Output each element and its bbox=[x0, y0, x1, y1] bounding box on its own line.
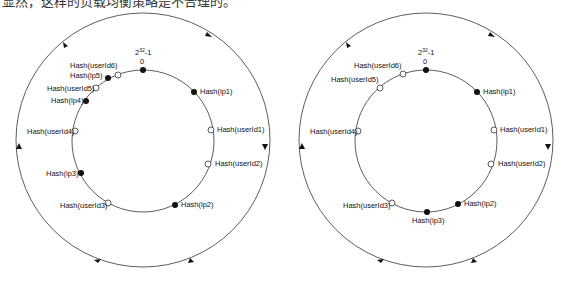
user-node-userid1 bbox=[208, 127, 214, 133]
server-node-ip1 bbox=[474, 89, 480, 95]
hash-ring-left: 232-1 0 Hash(ip1) Hash(userId1) Hash(use… bbox=[16, 13, 270, 267]
zero-label: 0 bbox=[423, 57, 427, 66]
node-label: Hash(userId5) bbox=[47, 84, 95, 93]
max-hash-label: 232-1 bbox=[418, 47, 434, 57]
node-label: Hash(userId3) bbox=[343, 201, 391, 210]
node-label: Hash(ip2) bbox=[464, 199, 497, 208]
node-label: Hash(userId5) bbox=[331, 75, 379, 84]
server-node-ip3 bbox=[78, 170, 84, 176]
node-label: Hash(ip5) bbox=[70, 71, 103, 80]
server-node-ip1 bbox=[191, 89, 197, 95]
node-label: Hash(userId2) bbox=[215, 159, 263, 168]
server-node-ip5 bbox=[105, 75, 111, 81]
user-node-userid1 bbox=[491, 127, 497, 133]
zero-label: 0 bbox=[140, 57, 144, 66]
arrow-icon bbox=[346, 42, 351, 48]
node-label: Hash(ip3) bbox=[46, 169, 79, 178]
node-label: Hash(ip2) bbox=[181, 200, 214, 209]
node-label: Hash(ip1) bbox=[200, 87, 233, 96]
hash-ring-right: 232-1 0 Hash(ip1) Hash(userId1) Hash(use… bbox=[299, 13, 553, 267]
server-node-ip4 bbox=[83, 98, 89, 104]
zero-point-node bbox=[423, 67, 429, 73]
node-label: Hash(userId4) bbox=[310, 127, 358, 136]
arrow-icon bbox=[16, 143, 22, 149]
node-label: Hash(ip3) bbox=[412, 216, 445, 225]
node-label: Hash(userId1) bbox=[500, 125, 548, 134]
user-node-userid6 bbox=[400, 71, 406, 77]
node-label: Hash(userId3) bbox=[60, 201, 108, 210]
user-node-userid2 bbox=[488, 161, 494, 167]
node-label: Hash(userId2) bbox=[498, 159, 546, 168]
arrow-icon bbox=[299, 143, 305, 149]
server-node-ip2 bbox=[455, 201, 461, 207]
user-node-userid6 bbox=[115, 72, 121, 78]
arrow-icon bbox=[94, 259, 101, 263]
node-label: Hash(userId1) bbox=[217, 125, 265, 134]
server-node-ip2 bbox=[172, 202, 178, 208]
zero-point-node bbox=[140, 67, 146, 73]
node-label: Hash(ip4) bbox=[51, 96, 84, 105]
arrow-icon bbox=[545, 144, 551, 150]
node-label: Hash(userId6) bbox=[354, 61, 402, 70]
arrow-icon bbox=[63, 42, 68, 48]
node-label: Hash(ip1) bbox=[483, 87, 516, 96]
user-node-userid2 bbox=[205, 161, 211, 167]
max-hash-label: 232-1 bbox=[135, 47, 151, 57]
arrow-icon bbox=[377, 259, 384, 263]
arrow-icon bbox=[262, 144, 268, 150]
user-node-userid5 bbox=[377, 85, 383, 91]
node-label: Hash(userId6) bbox=[70, 61, 118, 70]
server-node-ip3 bbox=[424, 209, 430, 215]
node-label: Hash(userId4) bbox=[27, 127, 75, 136]
